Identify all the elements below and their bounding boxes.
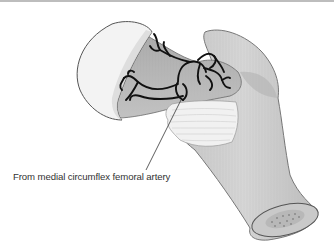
joint-capsule <box>166 101 238 147</box>
femur-illustration <box>0 0 334 248</box>
artery-label: From medial circumflex femoral artery <box>13 171 170 182</box>
